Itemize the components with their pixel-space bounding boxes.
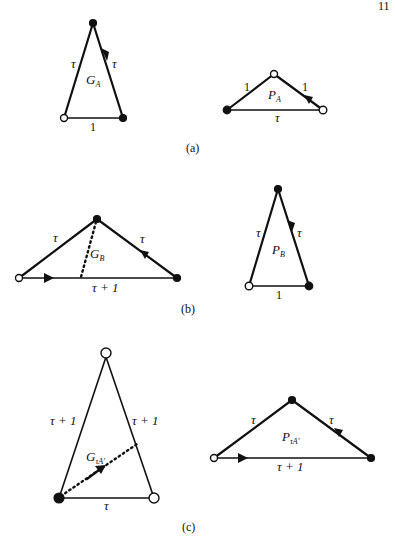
- edge-right: [292, 400, 371, 458]
- edge-label: τ: [329, 412, 335, 427]
- vertex-filled: [174, 275, 181, 282]
- edge-label: τ: [140, 231, 146, 246]
- panel-caption: (a): [186, 141, 199, 155]
- figure: 11 τ τ 1 GA 1 1 τ PA: [0, 0, 395, 549]
- triangle-g-b: τ τ τ + 1 GB: [16, 216, 181, 296]
- vertex-open: [61, 115, 68, 122]
- graph-label: GB: [90, 246, 104, 263]
- vertex-open: [101, 348, 111, 358]
- edge-label: τ: [251, 412, 257, 427]
- edge-left: [64, 23, 93, 118]
- edge-label: τ: [256, 225, 262, 240]
- vertex-open: [271, 71, 278, 78]
- graph-label: PτA': [281, 429, 300, 446]
- edge-label: 1: [244, 80, 250, 94]
- panel-caption: (b): [181, 302, 195, 316]
- page-number: 11: [378, 0, 390, 13]
- edge-right: [97, 219, 177, 278]
- edge-right: [93, 23, 123, 118]
- triangle-p-b: τ τ 1 PB: [245, 186, 313, 303]
- edge-right: [278, 189, 309, 286]
- graph-label: GτA': [86, 449, 105, 466]
- triangle-g-tau-a-prime: τ + 1 τ + 1 τ GτA': [50, 348, 159, 513]
- edge-label: 1: [90, 120, 96, 134]
- edge-label: τ: [104, 498, 110, 513]
- arrow-right-icon: [238, 453, 248, 463]
- edge-label: τ + 1: [92, 280, 118, 295]
- edge-label: τ: [112, 56, 118, 71]
- edge-right: [274, 74, 323, 110]
- vertex-open: [245, 282, 253, 290]
- graph-label: GA: [86, 72, 100, 89]
- vertex-open: [149, 493, 159, 503]
- triangle-p-tau-a-prime: τ τ τ + 1 PτA': [211, 397, 375, 475]
- vertex-filled: [120, 115, 127, 122]
- vertex-filled: [275, 186, 282, 193]
- panel-caption: (c): [182, 520, 195, 534]
- triangle-p-a: 1 1 τ PA: [223, 71, 327, 126]
- graph-label: PA: [267, 87, 281, 104]
- edge-label: 1: [302, 80, 308, 94]
- edge-label: τ: [71, 56, 77, 71]
- vertex-open: [211, 455, 218, 462]
- vertex-filled: [289, 397, 296, 404]
- triangle-g-a: τ τ 1 GA: [61, 20, 127, 135]
- graph-label: PB: [271, 242, 285, 259]
- panel-c: τ + 1 τ + 1 τ GτA' τ τ τ + 1 PτA' (c): [50, 348, 375, 534]
- vertex-open: [319, 106, 327, 114]
- edge-label: τ + 1: [50, 413, 76, 428]
- vertex-filled: [368, 455, 375, 462]
- edge-label: τ: [275, 110, 281, 125]
- panel-b: τ τ τ + 1 GB τ τ 1 PB (b): [16, 186, 313, 317]
- edge-left: [227, 74, 274, 110]
- vertex-filled: [305, 282, 313, 290]
- edge-label: τ + 1: [132, 413, 158, 428]
- vertex-filled: [94, 216, 101, 223]
- edge-left: [249, 189, 278, 286]
- vertex-open: [16, 275, 23, 282]
- vertex-filled: [54, 493, 64, 503]
- vertex-filled: [90, 20, 97, 27]
- edge-label: τ + 1: [277, 459, 303, 474]
- vertex-filled: [223, 106, 231, 114]
- edge-label: 1: [276, 288, 282, 302]
- edge-left: [214, 400, 292, 458]
- panel-a: τ τ 1 GA 1 1 τ PA (a): [61, 20, 327, 156]
- edge-left: [19, 219, 97, 278]
- edge-label: τ: [297, 225, 303, 240]
- edge-label: τ: [53, 230, 59, 245]
- arrow-right-icon: [44, 273, 54, 283]
- arrow-shaft: [87, 470, 99, 479]
